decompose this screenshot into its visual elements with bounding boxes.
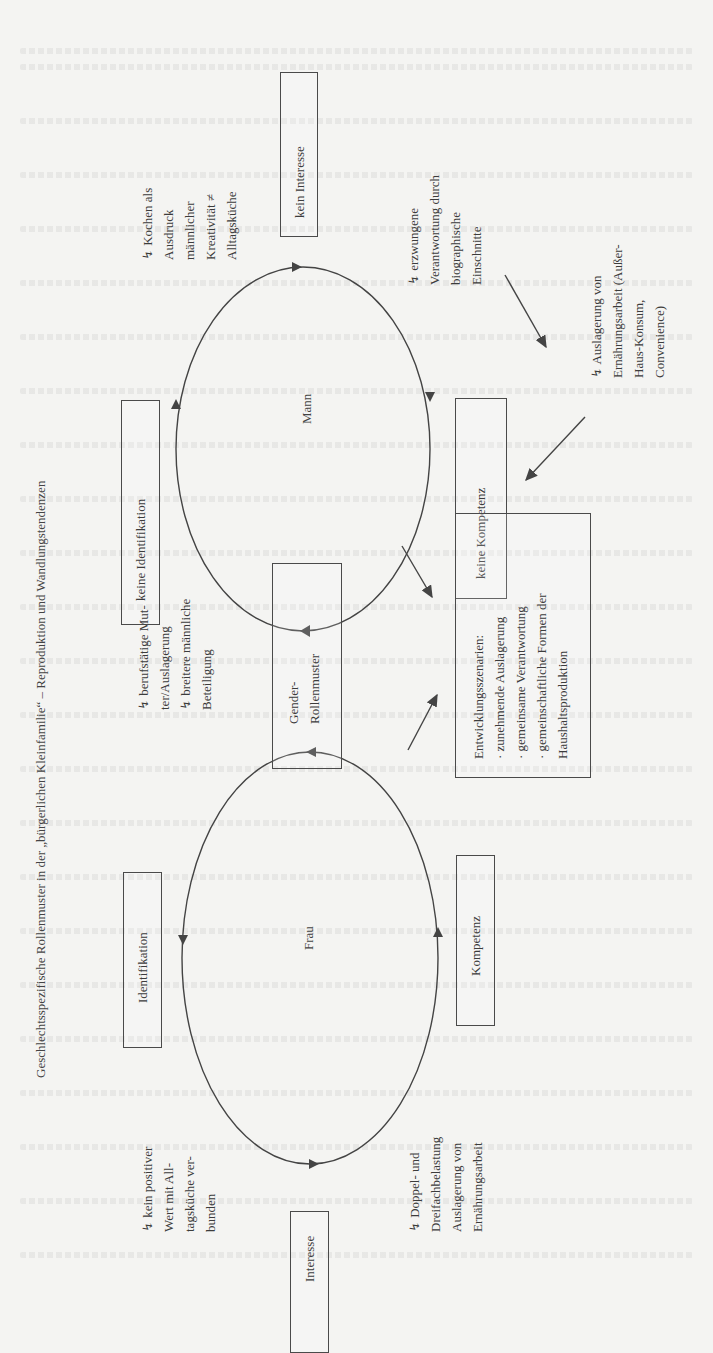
mann-arrow-right (425, 392, 435, 402)
keine-identifikation-text: keine Identifikation (130, 499, 151, 601)
frau-arrow-bottom (309, 1159, 319, 1169)
mann-arrow-top (292, 262, 302, 272)
box-gender-rollenmuster: Gender- Rollenmuster (272, 563, 342, 769)
kein-interesse-text: kein Interesse (289, 146, 310, 218)
annotation-berufstaetige: ↯ berufstätige Mut- ter/Auslagerung ↯ br… (133, 599, 217, 710)
annotation-kochen: ↯ Kochen als Ausdruck männlicher Kreativ… (137, 188, 242, 260)
gender-rollenmuster-text: Gender- Rollenmuster (283, 654, 325, 724)
annotation-doppelbelastung: ↯ Doppel- und Dreifachbelastung Auslager… (404, 1137, 488, 1232)
kompetenz-text: Kompetenz (465, 916, 486, 976)
box-identifikation: Identifikation (123, 872, 162, 1048)
arrow-erzwungene-to-auslagerung (505, 275, 546, 347)
arrow-auslagerung-to-keine-kompetenz (526, 417, 585, 480)
box-keine-identifikation: keine Identifikation (121, 400, 160, 625)
interesse-text: Interesse (299, 1236, 320, 1282)
box-kein-interesse: kein Interesse (280, 72, 318, 237)
box-kompetenz: Kompetenz (456, 855, 495, 1026)
box-entwicklungsszenarien: Entwicklungsszenarien: · zunehmende Ausl… (455, 513, 591, 778)
mann-label: Mann (299, 394, 315, 424)
box-interesse: Interesse (290, 1211, 329, 1353)
entwicklungsszenarien-text: Entwicklungsszenarien: · zunehmende Ausl… (468, 593, 573, 759)
arrow-mann-to-entwicklung (402, 546, 432, 597)
frau-arrow-left (178, 935, 188, 945)
diagram-title: Geschlechtsspezifische Rollenmuster in d… (33, 481, 49, 1078)
arrow-frau-to-entwicklung (408, 695, 437, 750)
frau-arrow-right (433, 927, 443, 937)
frau-label: Frau (301, 926, 317, 950)
identifikation-text: Identifikation (132, 932, 153, 1003)
frau-cycle-ellipse (182, 752, 438, 1164)
annotation-erzwungene-verantwortung: ↯ erzwungene Verantwortung durch biograp… (403, 175, 487, 285)
annotation-kein-positiver-wert: ↯ kein positiver Wert mit All- tagsküche… (137, 1147, 221, 1232)
annotation-auslagerung-mann: ↯ Auslagerung von Ernährungsarbeit (Auße… (586, 244, 670, 378)
